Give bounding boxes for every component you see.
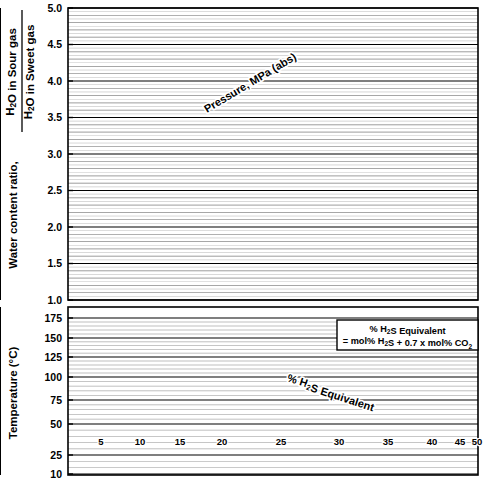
- h2s-curve-label-30: 30: [334, 436, 345, 447]
- h2s-curve-label-25: 25: [276, 436, 287, 447]
- top-y-axis-label-denominator: H2O in Sweet gas: [22, 25, 36, 120]
- legend-box: % H2S Equivalent = mol% H2S + 0.7 x mol%…: [337, 320, 478, 350]
- top-y-axis-label-main: Water content ratio,: [7, 161, 19, 269]
- h2s-curve-label-20: 20: [217, 436, 228, 447]
- bottom-y-tick-label: 10: [50, 468, 62, 480]
- top-y-tick-label: 5.0: [47, 2, 62, 14]
- top-y-tick-label: 2.0: [47, 221, 62, 233]
- bottom-y-tick-label: 150: [44, 332, 62, 344]
- bottom-y-tick-label: 75: [50, 394, 62, 406]
- top-y-tick-label: 3.5: [47, 111, 62, 123]
- bottom-y-tick-label: 25: [50, 449, 62, 461]
- pressure-curve-label-2: 2: [0, 0, 3, 2]
- top-y-tick-label: 4.5: [47, 38, 62, 50]
- canvas-background: [0, 0, 491, 500]
- top-y-tick-label: 1.5: [47, 257, 62, 269]
- h2s-curve-label-5: 5: [98, 436, 104, 447]
- figure-root: 5.04.54.03.53.02.52.01.51.0 706050403025…: [0, 0, 491, 500]
- h2s-curve-label-40: 40: [427, 436, 438, 447]
- top-y-axis-label-numerator: H2O in Sour gas: [4, 28, 18, 116]
- top-curve-labels: 7060504030252220151052: [0, 0, 6, 2]
- bottom-y-tick-label: 100: [44, 371, 62, 383]
- bottom-y-tick-label: 175: [44, 312, 62, 324]
- top-y-tick-label: 4.0: [47, 75, 62, 87]
- h2s-curve-label-15: 15: [175, 436, 186, 447]
- h2s-curve-label-50: 50: [472, 436, 483, 447]
- top-y-tick-label: 1.0: [47, 294, 62, 306]
- h2s-curve-label-45: 45: [455, 436, 466, 447]
- bottom-y-tick-label: 50: [50, 418, 62, 430]
- h2s-curve-label-10: 10: [135, 436, 146, 447]
- bottom-y-tick-label: 125: [44, 351, 62, 363]
- top-y-tick-label: 2.5: [47, 184, 62, 196]
- h2s-curve-label-35: 35: [383, 436, 394, 447]
- top-y-tick-label: 3.0: [47, 148, 62, 160]
- water-content-ratio-figure: 5.04.54.03.53.02.52.01.51.0 706050403025…: [0, 0, 491, 500]
- bottom-y-axis-label: Temperature (°C): [7, 347, 19, 440]
